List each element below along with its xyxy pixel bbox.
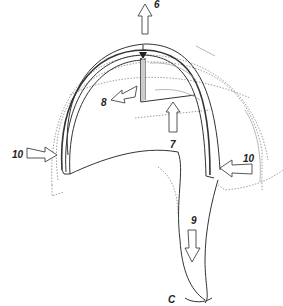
patent-figure: 6 8 7 10 10 9 C: [0, 0, 283, 306]
arrow-inner-up-icon: [166, 102, 180, 132]
arrow-right-icon: [27, 147, 57, 162]
leg-bottom: [185, 298, 212, 302]
label-c: C: [168, 294, 176, 305]
dotted-outline: [52, 55, 283, 215]
label-10-right: 10: [243, 153, 255, 164]
inner-curve: [70, 150, 205, 300]
faint-line: [196, 46, 215, 56]
label-9: 9: [191, 215, 197, 226]
arrow-down-icon: [185, 230, 200, 262]
arrow-up-icon: [138, 4, 152, 34]
leg-edge: [205, 180, 218, 303]
label-8: 8: [101, 97, 107, 108]
arrow-left-icon: [111, 86, 137, 103]
label-6: 6: [154, 0, 160, 10]
label-10-left: 10: [12, 149, 24, 160]
label-7: 7: [170, 139, 176, 150]
